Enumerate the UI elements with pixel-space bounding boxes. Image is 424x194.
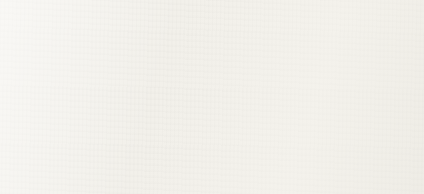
chart-legend: FISCAL REGULATORY PERSONAL OVERALL xyxy=(22,16,94,116)
x-tick-2020: 2020 xyxy=(348,165,367,175)
y-tick-50: 50 xyxy=(372,155,382,165)
y-axis-tick-labels: 11020304050 xyxy=(372,9,382,165)
legend-label-personal: PERSONAL xyxy=(22,71,94,80)
legend-label-overall: OVERALL xyxy=(22,96,94,105)
y-tick-40: 40 xyxy=(372,125,382,135)
y-axis-title: RANK xyxy=(400,78,410,106)
y-tick-30: 30 xyxy=(372,96,382,106)
data-series-group xyxy=(103,38,358,145)
x-tick-2005: 2005 xyxy=(157,165,176,175)
x-axis-tick-labels: 20002005201020152020 xyxy=(93,165,367,175)
legend-label-regulatory: REGULATORY xyxy=(22,46,94,55)
x-tick-2010: 2010 xyxy=(221,165,240,175)
x-tick-2015: 2015 xyxy=(285,165,304,175)
x-tick-2000: 2000 xyxy=(93,165,112,175)
gridlines-group xyxy=(103,14,362,160)
legend-item-overall: OVERALL xyxy=(22,91,94,105)
x-axis-title: YEAR xyxy=(204,180,231,190)
legend-swatch-overall xyxy=(34,91,82,94)
legend-swatch-fiscal xyxy=(34,16,82,19)
legend-swatch-regulatory xyxy=(34,41,82,44)
legend-label-fiscal: FISCAL xyxy=(22,21,94,30)
y-tick-1: 1 xyxy=(372,9,377,19)
legend-item-personal: PERSONAL xyxy=(22,66,94,80)
legend-item-fiscal: FISCAL xyxy=(22,16,94,30)
y-tick-10: 10 xyxy=(372,36,382,46)
y-tick-20: 20 xyxy=(372,66,382,76)
legend-swatch-personal xyxy=(34,66,82,69)
series-line-overall xyxy=(103,97,358,130)
legend-item-regulatory: REGULATORY xyxy=(22,41,94,55)
